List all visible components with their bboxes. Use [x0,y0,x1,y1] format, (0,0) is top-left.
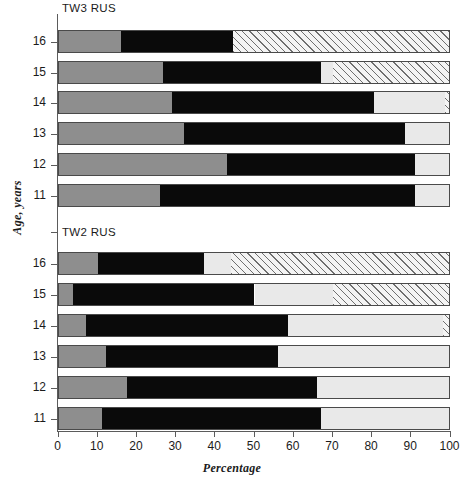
y-tick-label: 15 [6,65,46,79]
bar-segment-3 [288,315,443,336]
bar-tw2-rus-age-12 [58,376,450,399]
y-tick [51,134,58,135]
x-tick [175,431,176,437]
y-tick-label: 14 [6,95,46,109]
bar-segment-3 [278,346,449,367]
y-tick [51,73,58,74]
bar-tw2-rus-age-14 [58,314,450,337]
bar-segment-2 [127,377,317,398]
bar-tw2-rus-age-13 [58,345,450,368]
y-tick-panel-separator [51,232,58,233]
bar-segment-2 [98,253,204,274]
y-tick-label: 16 [6,34,46,48]
bar-segment-3 [405,123,449,144]
y-tick-label: 11 [6,188,46,202]
bar-segment-2 [73,284,254,305]
bar-segment-4 [333,62,450,83]
y-tick-label: 12 [6,380,46,394]
y-tick-label: 11 [6,411,46,425]
x-tick [97,431,98,437]
x-tick-label: 30 [155,439,195,453]
panel-title-tw2-rus: TW2 RUS [62,226,116,238]
y-tick-label: 16 [6,256,46,270]
bar-segment-2 [86,315,288,336]
y-tick [51,42,58,43]
bar-segment-1 [59,92,173,113]
bar-tw3-rus-age-11 [58,184,450,207]
y-tick [51,326,58,327]
y-tick [51,264,58,265]
x-tick-label: 50 [234,439,274,453]
bar-segment-2 [172,92,374,113]
bar-segment-1 [59,185,161,206]
x-axis-title: Percentage [0,461,464,476]
bar-segment-1 [59,154,228,175]
y-tick [51,196,58,197]
x-tick-label: 70 [312,439,352,453]
x-tick [58,431,59,437]
x-tick-label: 90 [390,439,430,453]
x-tick-label: 80 [351,439,391,453]
x-tick [332,431,333,437]
bar-segment-1 [59,253,98,274]
bar-segment-1 [59,123,184,144]
bar-segment-2 [163,62,321,83]
x-tick-label: 0 [38,439,78,453]
y-tick [51,103,58,104]
bar-segment-3 [317,377,449,398]
x-tick [450,431,451,437]
bar-segment-1 [59,408,102,429]
x-tick [371,431,372,437]
bar-segment-1 [59,31,122,52]
y-tick-label: 12 [6,157,46,171]
bar-segment-3 [321,62,333,83]
bar-segment-1 [59,377,128,398]
y-tick-label: 14 [6,318,46,332]
x-tick-label: 10 [77,439,117,453]
bar-segment-4 [333,284,450,305]
y-tick [51,419,58,420]
y-tick [51,295,58,296]
y-tick [51,388,58,389]
x-tick-label: 40 [194,439,234,453]
x-tick-label: 20 [116,439,156,453]
bar-segment-1 [59,284,74,305]
panel-title-tw3-rus: TW3 RUS [62,2,116,14]
bar-segment-2 [102,408,322,429]
bar-tw2-rus-age-11 [58,407,450,430]
y-tick [51,165,58,166]
bar-segment-2 [227,154,415,175]
bar-segment-2 [184,123,405,144]
x-tick-label: 100 [430,439,464,453]
bar-segment-4 [233,31,449,52]
bar-tw3-rus-age-13 [58,122,450,145]
bar-segment-1 [59,62,164,83]
bar-segment-3 [204,253,231,274]
y-tick-label: 13 [6,349,46,363]
bar-tw3-rus-age-16 [58,30,450,53]
x-tick [214,431,215,437]
bar-segment-1 [59,346,106,367]
x-tick [293,431,294,437]
bar-segment-4 [445,92,450,113]
stacked-bar-chart: Age, years TW3 RUS TW2 RUS 1615141312111… [0,0,464,482]
bar-tw3-rus-age-12 [58,153,450,176]
y-axis-title: Age, years [10,158,25,258]
y-tick [51,357,58,358]
bar-segment-3 [374,92,445,113]
x-tick [410,431,411,437]
x-tick [254,431,255,437]
bar-segment-3 [415,185,449,206]
y-tick-label: 15 [6,287,46,301]
bar-segment-4 [231,253,450,274]
bar-segment-1 [59,315,86,336]
bar-tw2-rus-age-15 [58,283,450,306]
bar-segment-4 [443,315,450,336]
bar-tw3-rus-age-14 [58,91,450,114]
y-tick-label: 13 [6,126,46,140]
bar-segment-2 [106,346,278,367]
bar-segment-3 [255,284,333,305]
bar-segment-3 [321,408,449,429]
bar-segment-2 [121,31,233,52]
bar-tw2-rus-age-16 [58,252,450,275]
